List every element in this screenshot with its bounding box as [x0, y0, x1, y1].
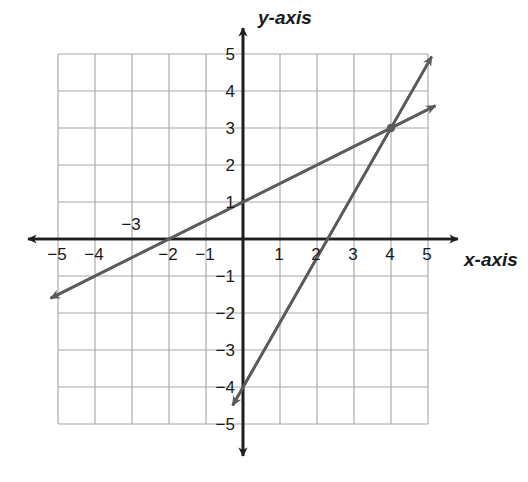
- y-tick-label-5: 5: [226, 45, 235, 64]
- x-tick-label-neg5: −5: [47, 245, 66, 264]
- y-tick-label-1: 1: [226, 193, 235, 212]
- axis-lines: [28, 28, 458, 456]
- y-tick-label-neg3: −3: [216, 341, 235, 360]
- y-tick-label-neg4: −4: [216, 378, 235, 397]
- y-tick-label-4: 4: [226, 82, 235, 101]
- x-axis-label: x-axis: [463, 249, 518, 270]
- y-tick-label-3: 3: [226, 119, 235, 138]
- x-tick-label-5: 5: [422, 245, 431, 264]
- x-tick-label-neg4: −4: [84, 245, 103, 264]
- plotted-points: [387, 124, 395, 132]
- x-tick-label-neg3: −3: [121, 215, 140, 234]
- graph-canvas: −5−4−3−2−112345 54321−1−2−3−4−5 x-axis y…: [0, 0, 528, 482]
- y-axis-label: y-axis: [257, 7, 312, 28]
- x-tick-label-1: 1: [274, 245, 283, 264]
- y-tick-label-neg2: −2: [216, 304, 235, 323]
- coordinate-plane-figure: −5−4−3−2−112345 54321−1−2−3−4−5 x-axis y…: [0, 0, 528, 482]
- y-tick-label-neg1: −1: [216, 267, 235, 286]
- x-tick-label-2: 2: [311, 245, 320, 264]
- graph-line-steep-line-reverse-arrow: [233, 57, 432, 406]
- point-intersection: [387, 124, 395, 132]
- x-tick-label-3: 3: [348, 245, 357, 264]
- x-tick-label-4: 4: [385, 245, 394, 264]
- x-tick-label-neg1: −1: [195, 245, 214, 264]
- x-tick-label-neg2: −2: [158, 245, 177, 264]
- y-tick-label-2: 2: [226, 156, 235, 175]
- y-tick-label-neg5: −5: [216, 415, 235, 434]
